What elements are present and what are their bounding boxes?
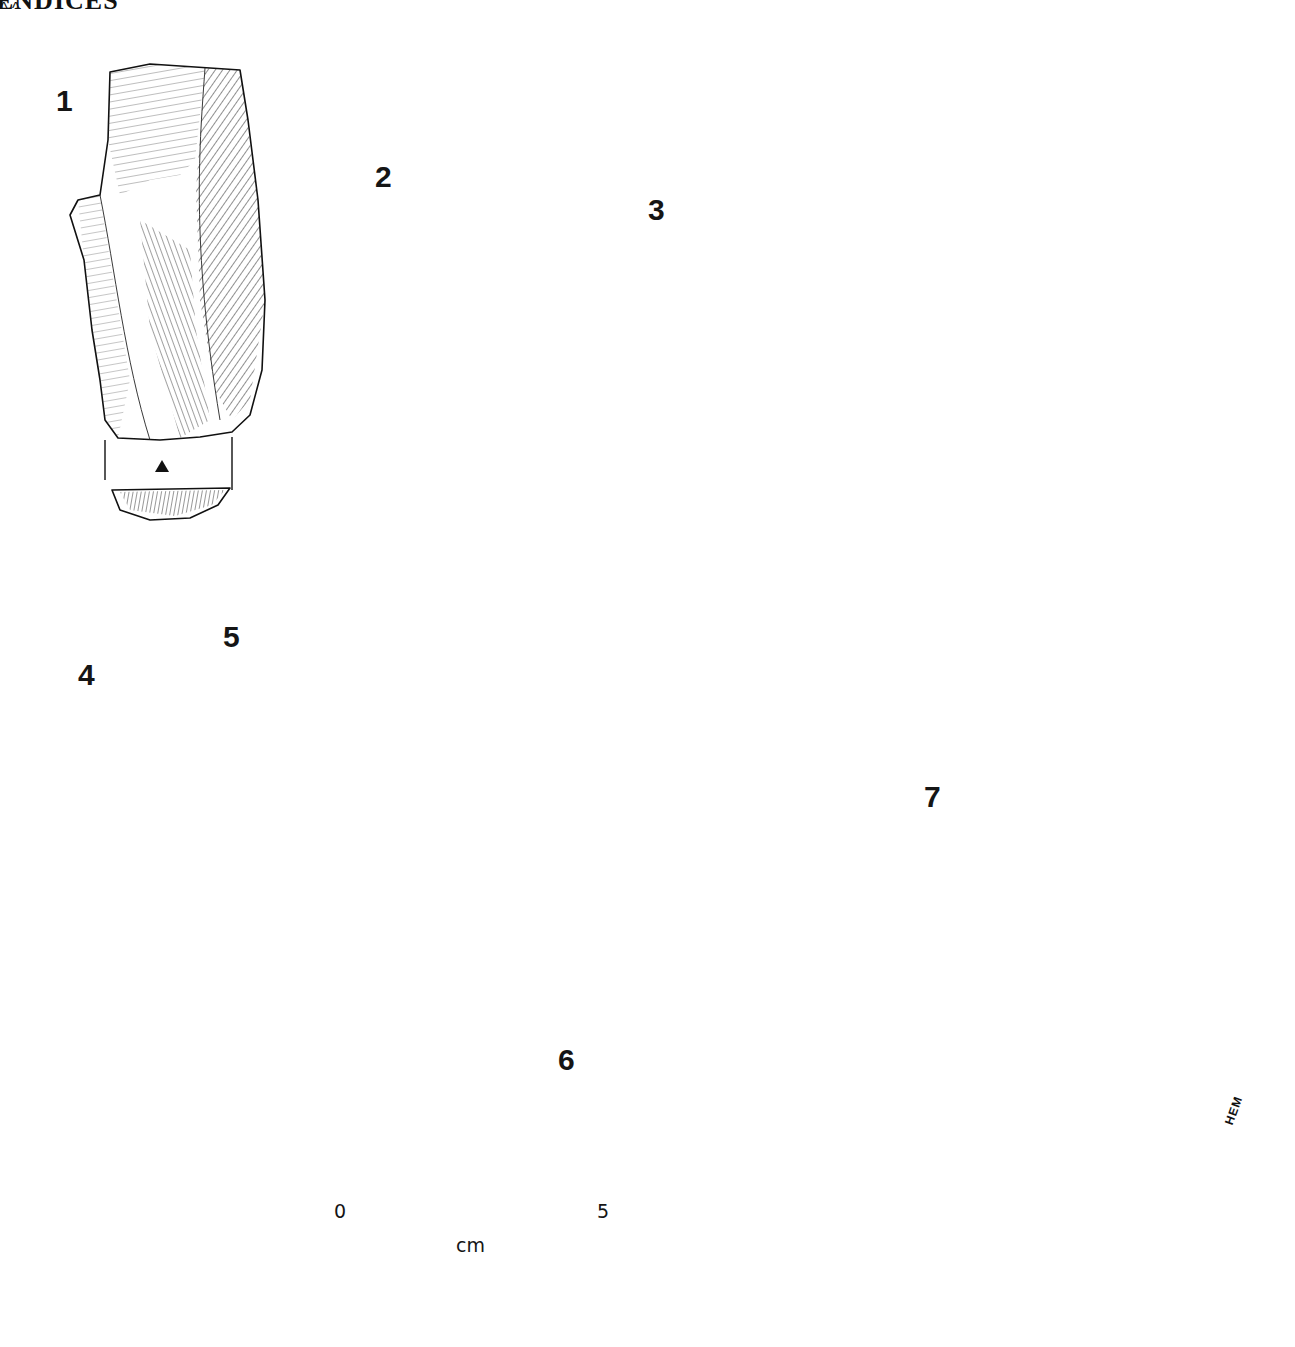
figure-label-7: 7: [924, 782, 941, 812]
scale-bar-unit-label: cm: [456, 1236, 485, 1255]
scale-bar-end-label: 5: [597, 1202, 609, 1221]
bulb-of-percussion-marker-icon: [155, 460, 169, 472]
figure-label-2: 2: [375, 162, 392, 192]
artifact-figure-1: [70, 64, 265, 520]
figure-label-3: 3: [648, 195, 665, 225]
figure-label-1: 1: [56, 86, 73, 116]
figure-label-4: 4: [78, 660, 95, 690]
figure-label-6: 6: [558, 1045, 575, 1075]
scale-bar-start-label: 0: [334, 1202, 346, 1221]
figure-label-5: 5: [223, 622, 240, 652]
